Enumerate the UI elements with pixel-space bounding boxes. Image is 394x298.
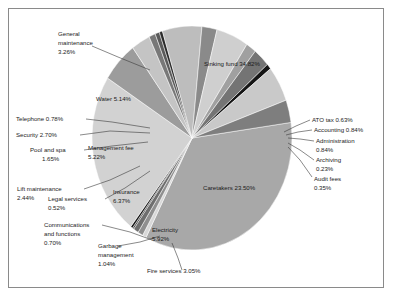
label-water: Water 5.14% [96,95,132,102]
label-management-fee-line2: 5.22% [88,153,106,160]
label-lift-maintenance-line2: 2.44% [17,194,35,201]
pie-slices [92,26,292,250]
label-general-maintenance-line1: General [58,30,80,37]
label-pool-and-spa-line2: 1.65% [42,155,60,162]
label-lift-maintenance-line1: Lift maintenance [17,185,62,192]
label-archiving-line1: Archiving [316,156,341,163]
label-communications-line2: and functions [44,230,80,237]
label-garbage-line1: Garbage [98,242,122,249]
chart-page: General maintenance 3.26% Telephone 0.78… [0,0,394,298]
label-archiving-line2: 0.23% [316,165,334,172]
label-garbage-line3: 1.04% [98,260,116,267]
label-management-fee-line1: Management fee [88,144,134,151]
pie-chart: General maintenance 3.26% Telephone 0.78… [0,0,394,298]
label-electricity-line1: Electricity [152,226,179,233]
label-audit-fees-line2: 0.35% [314,184,332,191]
label-insurance-line1: Insurance [113,188,140,195]
label-general-maintenance-line2: maintenance [58,39,94,46]
label-administration-line2: 0.84% [316,146,334,153]
label-telephone: Telephone 0.78% [16,115,64,122]
label-communications-line1: Communications [44,221,89,228]
label-ato-tax: ATO tax 0.63% [312,116,353,123]
label-caretakers: Caretakers 23.50% [203,184,256,191]
label-general-maintenance-line3: 3.26% [58,48,76,55]
label-security: Security 2.70% [16,131,58,138]
label-communications-line3: 0.70% [44,239,62,246]
label-pool-and-spa-line1: Pool and spa [30,146,66,153]
label-accounting: Accounting 0.84% [314,126,364,133]
label-legal-services-line2: 0.52% [48,204,66,211]
label-legal-services-line1: Legal services [48,195,87,202]
label-garbage-line2: management [98,251,134,258]
label-fire-services: Fire services 3.05% [147,267,201,274]
label-insurance-line2: 6.37% [113,197,131,204]
label-sinking-fund: Sinking fund 34.82% [204,60,260,67]
label-electricity-line2: 5.92% [152,235,170,242]
label-audit-fees-line1: Audit fees [314,175,341,182]
label-administration-line1: Administration [316,137,355,144]
leader-audit-fees [288,147,312,177]
